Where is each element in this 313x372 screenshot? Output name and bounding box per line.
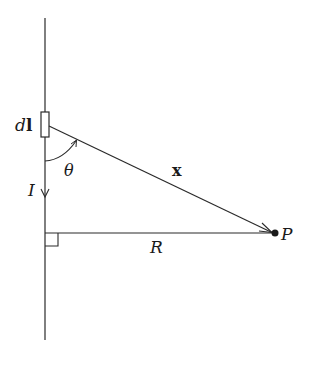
current-element-box [41, 112, 49, 137]
displacement-vector-x [49, 126, 273, 233]
point-P-dot [272, 230, 279, 237]
biot-savart-diagram: dl P θ I x R [0, 0, 313, 372]
displacement-label: x [172, 161, 182, 180]
point-P-label: P [280, 224, 293, 244]
right-angle-marker [45, 233, 58, 246]
distance-label: R [149, 237, 163, 257]
current-label: I [27, 180, 35, 200]
current-element-label: dl [15, 115, 33, 135]
angle-theta-label: θ [64, 161, 74, 180]
